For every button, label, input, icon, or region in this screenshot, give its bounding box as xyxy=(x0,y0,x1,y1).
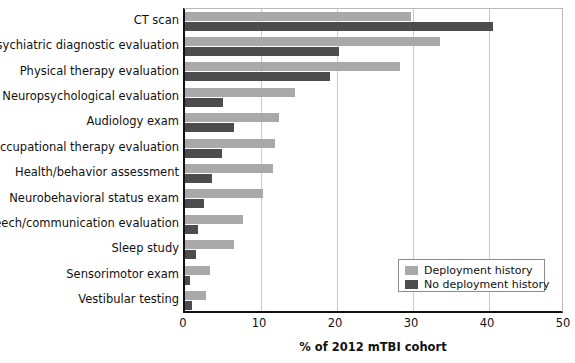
bar-no-deployment-history xyxy=(185,98,223,107)
legend-entry-label: Deployment history xyxy=(424,265,533,276)
bar-no-deployment-history xyxy=(185,123,234,132)
legend-swatch-icon xyxy=(405,266,418,275)
category-label: Physical therapy evaluation xyxy=(20,66,179,78)
bar-deployment-history xyxy=(185,113,279,122)
category-label: Neurobehavioral status exam xyxy=(9,193,179,205)
category-label: Audiology exam xyxy=(86,116,179,128)
bar-row xyxy=(185,289,562,314)
bar-row xyxy=(185,85,562,110)
bar-no-deployment-history xyxy=(185,301,192,310)
bar-no-deployment-history xyxy=(185,47,339,56)
x-tick-label: 30 xyxy=(404,316,419,330)
bar-row xyxy=(185,136,562,161)
x-tick-label: 20 xyxy=(328,316,343,330)
x-tick-label: 0 xyxy=(179,316,186,330)
bar-row xyxy=(185,34,562,59)
bar-no-deployment-history xyxy=(185,22,493,31)
category-label: Sleep study xyxy=(112,243,180,255)
legend-entry-no-deployment-history: No deployment history xyxy=(405,278,544,291)
y-axis-category-labels: CT scanPsychiatric diagnostic evaluation… xyxy=(0,8,179,313)
bar-chart-figure: CT scanPsychiatric diagnostic evaluation… xyxy=(0,0,575,363)
x-axis-tick-labels: 01020304050 xyxy=(183,316,563,334)
bar-deployment-history xyxy=(185,37,440,46)
x-tick-label: 40 xyxy=(480,316,495,330)
bar-deployment-history xyxy=(185,62,400,71)
bar-no-deployment-history xyxy=(185,225,198,234)
bar-row xyxy=(185,60,562,85)
bar-row xyxy=(185,111,562,136)
category-label: Sensorimotor exam xyxy=(66,269,179,281)
legend-entry-deployment-history: Deployment history xyxy=(405,264,544,277)
bar-row xyxy=(185,162,562,187)
bar-row xyxy=(185,187,562,212)
category-label: Vestibular testing xyxy=(78,294,179,306)
bar-deployment-history xyxy=(185,291,206,300)
bar-no-deployment-history xyxy=(185,199,204,208)
bar-no-deployment-history xyxy=(185,149,222,158)
bar-no-deployment-history xyxy=(185,250,196,259)
bar-deployment-history xyxy=(185,189,263,198)
legend-entry-label: No deployment history xyxy=(424,279,550,290)
bar-no-deployment-history xyxy=(185,72,330,81)
bar-no-deployment-history xyxy=(185,276,190,285)
bar-deployment-history xyxy=(185,215,243,224)
category-label: Speech/communication evaluation xyxy=(0,218,179,230)
category-label: Health/behavior assessment xyxy=(15,167,179,179)
category-label: Psychiatric diagnostic evaluation xyxy=(0,40,179,52)
bar-deployment-history xyxy=(185,12,411,21)
x-tick-label: 50 xyxy=(556,316,571,330)
x-axis-title: % of 2012 mTBI cohort xyxy=(183,340,563,354)
legend: Deployment history No deployment history xyxy=(398,259,545,292)
category-label: CT scan xyxy=(134,15,179,27)
bar-deployment-history xyxy=(185,266,210,275)
bar-deployment-history xyxy=(185,164,273,173)
bar-deployment-history xyxy=(185,139,275,148)
x-tick-label: 10 xyxy=(252,316,267,330)
category-label: Neuropsychological evaluation xyxy=(2,91,179,103)
legend-swatch-icon xyxy=(405,280,418,289)
bar-deployment-history xyxy=(185,240,234,249)
bar-no-deployment-history xyxy=(185,174,212,183)
bar-row xyxy=(185,212,562,237)
bar-deployment-history xyxy=(185,88,295,97)
category-label: Occupational therapy evaluation xyxy=(0,142,179,154)
bar-row xyxy=(185,9,562,34)
